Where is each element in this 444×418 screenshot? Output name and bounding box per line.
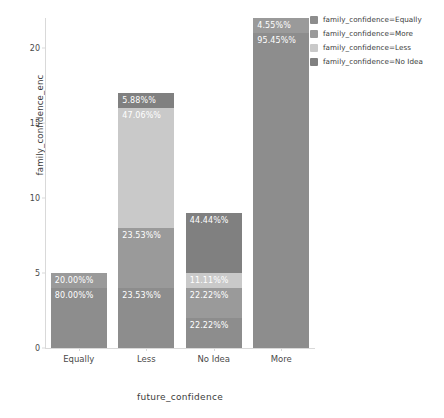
x-tick-mark <box>146 348 147 351</box>
legend-label: family_confidence=Equally <box>323 15 422 24</box>
stacked-bar[interactable]: 4.55%%95.45%% <box>253 18 309 348</box>
bar-segment[interactable]: 95.45%% <box>253 33 309 348</box>
stacked-bar[interactable]: 20.00%%80.00%% <box>51 273 107 348</box>
legend: family_confidence=Equallyfamily_confiden… <box>310 14 423 67</box>
legend-label: family_confidence=No Idea <box>323 57 423 66</box>
x-tick-label: No Idea <box>186 354 242 364</box>
segment-value-label: 20.00%% <box>55 276 94 285</box>
x-axis-title: future_confidence <box>45 392 315 402</box>
bar-segment[interactable]: 5.88%% <box>118 93 174 108</box>
legend-swatch-icon <box>310 16 318 24</box>
y-tick-mark <box>42 198 45 199</box>
segment-value-label: 22.22%% <box>190 321 229 330</box>
segment-value-label: 44.44%% <box>190 216 229 225</box>
y-tick-mark <box>42 348 45 349</box>
y-tick-mark <box>42 48 45 49</box>
segment-value-label: 22.22%% <box>190 291 229 300</box>
legend-swatch-icon <box>310 44 318 52</box>
y-tick-label: 15 <box>30 119 40 128</box>
plot-area: 05101520 20.00%%80.00%%5.88%%47.06%%23.5… <box>45 18 315 348</box>
x-tick-mark <box>79 348 80 351</box>
x-axis-line <box>45 348 315 349</box>
segment-value-label: 95.45%% <box>257 36 296 45</box>
segment-value-label: 23.53%% <box>122 291 161 300</box>
segment-value-label: 5.88%% <box>122 96 156 105</box>
x-tick-mark <box>281 348 282 351</box>
legend-item[interactable]: family_confidence=Equally <box>310 14 423 25</box>
bar-segment[interactable]: 23.53%% <box>118 288 174 348</box>
bar-segment[interactable]: 4.55%% <box>253 18 309 33</box>
legend-label: family_confidence=More <box>323 29 413 38</box>
y-tick-mark <box>42 273 45 274</box>
bar-segment[interactable]: 23.53%% <box>118 228 174 288</box>
y-tick-label: 5 <box>35 269 40 278</box>
segment-value-label: 80.00%% <box>55 291 94 300</box>
bar-segment[interactable]: 80.00%% <box>51 288 107 348</box>
legend-swatch-icon <box>310 58 318 66</box>
y-axis-line <box>45 18 46 348</box>
x-tick-label: More <box>253 354 309 364</box>
legend-item[interactable]: family_confidence=More <box>310 28 423 39</box>
segment-value-label: 23.53%% <box>122 231 161 240</box>
x-tick-label: Less <box>118 354 174 364</box>
bar-segment[interactable]: 47.06%% <box>118 108 174 228</box>
segment-value-label: 47.06%% <box>122 111 161 120</box>
y-tick-label: 0 <box>35 344 40 353</box>
stacked-bar[interactable]: 44.44%%11.11%%22.22%%22.22%% <box>186 213 242 348</box>
legend-swatch-icon <box>310 30 318 38</box>
bar-segment[interactable]: 20.00%% <box>51 273 107 288</box>
y-tick-label: 10 <box>30 194 40 203</box>
legend-item[interactable]: family_confidence=No Idea <box>310 56 423 67</box>
bar-segment[interactable]: 11.11%% <box>186 273 242 288</box>
legend-label: family_confidence=Less <box>323 43 411 52</box>
segment-value-label: 4.55%% <box>257 21 291 30</box>
chart-root: family_confidence_enc future_confidence … <box>0 0 444 418</box>
segment-value-label: 11.11%% <box>190 276 229 285</box>
x-tick-label: Equally <box>51 354 107 364</box>
bar-segment[interactable]: 22.22%% <box>186 288 242 318</box>
y-tick-mark <box>42 123 45 124</box>
bar-segment[interactable]: 22.22%% <box>186 318 242 348</box>
stacked-bar[interactable]: 5.88%%47.06%%23.53%%23.53%% <box>118 93 174 348</box>
y-tick-label: 20 <box>30 44 40 53</box>
legend-item[interactable]: family_confidence=Less <box>310 42 423 53</box>
x-tick-mark <box>214 348 215 351</box>
bar-segment[interactable]: 44.44%% <box>186 213 242 273</box>
